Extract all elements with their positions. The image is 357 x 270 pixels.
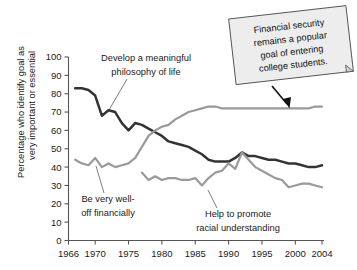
- y-tick-label-20: 20: [51, 198, 62, 209]
- callout-note: Financial security remains a popular goa…: [229, 6, 354, 85]
- y-tick-label-30: 30: [51, 180, 62, 191]
- y-tick-label-0: 0: [56, 235, 61, 246]
- x-tick-label-1995: 1995: [251, 248, 272, 259]
- annotation-racial-leader: [208, 190, 217, 208]
- y-tick-label-10: 10: [51, 217, 62, 228]
- callout-arrow-head: [283, 97, 291, 109]
- x-tick-label-1985: 1985: [185, 248, 206, 259]
- callout-box-shape: [229, 6, 354, 85]
- annotation-philosophy-line1: Develop a meaningful: [101, 53, 191, 63]
- y-tick-label-60: 60: [51, 125, 62, 136]
- annotation-philosophy-leader: [109, 79, 127, 110]
- x-tick-label-1990: 1990: [218, 248, 239, 259]
- y-axis-title-line1: Percentage who identify goal as: [16, 46, 26, 178]
- y-axis-title: Percentage who identify goal as very imp…: [16, 46, 37, 178]
- annotation-financial-leader: [96, 166, 104, 193]
- x-tick-label-1966: 1966: [58, 248, 79, 259]
- chart-figure: Percentage who identify goal as very imp…: [0, 0, 357, 270]
- y-tick-label-100: 100: [46, 51, 62, 62]
- y-tick-label-80: 80: [51, 88, 62, 99]
- y-axis-title-line2: very important or essential: [27, 51, 37, 160]
- y-tick-label-90: 90: [51, 70, 62, 81]
- annotation-financial: Be very well- off financially: [81, 166, 135, 218]
- callout-arrow: [272, 86, 291, 109]
- y-tick-label-40: 40: [51, 162, 62, 173]
- annotation-philosophy-line2: philosophy of life: [111, 67, 180, 77]
- x-tick-label-1980: 1980: [151, 248, 172, 259]
- annotation-financial-line1: Be very well-: [81, 194, 134, 204]
- annotation-philosophy: Develop a meaningful philosophy of life: [101, 53, 191, 110]
- series-lines: [75, 88, 322, 187]
- annotation-racial-line2: racial understanding: [196, 223, 280, 233]
- x-tick-label-1975: 1975: [118, 248, 139, 259]
- x-tick-label-1970: 1970: [85, 248, 106, 259]
- y-ticks: 0102030405060708090100: [46, 51, 69, 246]
- y-tick-label-70: 70: [51, 106, 62, 117]
- annotation-racial: Help to promote racial understanding: [196, 190, 280, 233]
- x-tick-label-2000: 2000: [285, 248, 306, 259]
- series-line-2: [142, 152, 322, 187]
- annotation-racial-line1: Help to promote: [205, 209, 271, 219]
- y-tick-label-50: 50: [51, 143, 62, 154]
- x-ticks: 196619701975198019851990199520002004: [58, 241, 333, 259]
- x-tick-label-2004: 2004: [311, 248, 332, 259]
- series-line-1: [75, 107, 322, 168]
- annotation-financial-line2: off financially: [81, 208, 135, 218]
- line-chart-svg: Percentage who identify goal as very imp…: [0, 0, 357, 270]
